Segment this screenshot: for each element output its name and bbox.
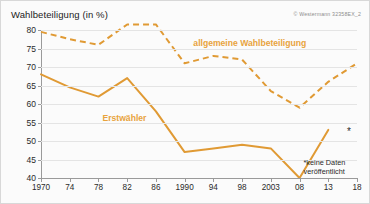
x-axis-tick-label: 2003 <box>262 183 280 192</box>
footnote: *keine Daten veröffentlicht <box>304 158 346 176</box>
x-axis-tick <box>242 178 243 182</box>
x-axis-tick-label: 86 <box>151 183 160 192</box>
x-axis-tick <box>41 178 42 182</box>
annotation-allgemeine-wahlbeteiligung: allgemeine Wahlbeteiligung <box>193 38 306 48</box>
y-axis-tick <box>38 123 41 124</box>
x-axis-tick-label: 94 <box>209 183 218 192</box>
y-axis-tick-label: 60 <box>27 99 36 109</box>
gridline <box>41 67 357 68</box>
x-axis-tick <box>271 178 272 182</box>
x-axis-tick-label: 13 <box>324 183 333 192</box>
y-axis-tick <box>38 160 41 161</box>
x-axis-tick <box>357 178 358 182</box>
x-axis-tick-label: 1990 <box>176 183 194 192</box>
x-axis-tick-label: 78 <box>94 183 103 192</box>
x-axis-tick <box>70 178 71 182</box>
y-axis-tick-label: 70 <box>27 62 36 72</box>
x-axis-tick <box>156 178 157 182</box>
x-axis-tick <box>328 178 329 182</box>
series-line-erstwaehler <box>41 74 328 178</box>
gridline <box>41 30 357 31</box>
copyright-credit: © Westermann 32358EX_2 <box>293 11 361 17</box>
gridline <box>41 123 357 124</box>
y-axis-tick-label: 65 <box>27 81 36 91</box>
y-axis-tick-label: 55 <box>27 118 36 128</box>
y-axis-tick-label: 75 <box>27 44 36 54</box>
x-axis-tick-label: 98 <box>238 183 247 192</box>
chart-title: Wahlbeteiligung (in %) <box>11 9 108 20</box>
y-axis-tick-label: 45 <box>27 155 36 165</box>
x-axis-tick-label: 1970 <box>32 183 50 192</box>
plot-area: 404550556065707580 197074788286199094982… <box>41 30 357 178</box>
y-axis-tick <box>38 49 41 50</box>
x-axis-tick <box>98 178 99 182</box>
y-axis-tick <box>38 104 41 105</box>
y-axis-tick <box>38 86 41 87</box>
x-axis-tick-label: 18 <box>352 183 361 192</box>
annotation-erstwaehler: Erstwähler <box>102 113 146 123</box>
y-axis-tick <box>38 67 41 68</box>
x-axis-tick-label: 74 <box>65 183 74 192</box>
gridline <box>41 104 357 105</box>
y-axis-tick <box>38 30 41 31</box>
y-axis-tick-label: 50 <box>27 136 36 146</box>
footnote-line-2: veröffentlicht <box>304 167 346 176</box>
gridline <box>41 86 357 87</box>
gridline <box>41 141 357 142</box>
x-axis-tick-label: 08 <box>295 183 304 192</box>
missing-data-marker: * <box>347 126 351 137</box>
x-axis-tick <box>300 178 301 182</box>
x-axis-tick <box>127 178 128 182</box>
y-axis-tick-label: 40 <box>27 173 36 183</box>
x-axis-tick-label: 82 <box>123 183 132 192</box>
y-axis-tick <box>38 141 41 142</box>
gridline <box>41 178 357 179</box>
footnote-line-1: *keine Daten <box>304 158 346 167</box>
x-axis-tick <box>213 178 214 182</box>
gridline <box>41 49 357 50</box>
x-axis-tick <box>185 178 186 182</box>
y-axis-tick-label: 80 <box>27 25 36 35</box>
chart-container: Wahlbeteiligung (in %) © Westermann 3235… <box>0 0 370 204</box>
